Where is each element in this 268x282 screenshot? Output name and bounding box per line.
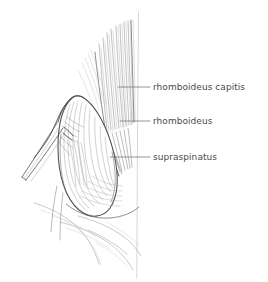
forelimb-edge bbox=[51, 186, 63, 240]
anatomical-figure: rhomboideus capitis rhomboideus supraspi… bbox=[0, 0, 268, 282]
snout-point bbox=[22, 123, 63, 180]
dorsal-midline bbox=[137, 12, 139, 278]
supraspinatus-outline bbox=[58, 96, 117, 216]
lower-body-contours-fine bbox=[40, 210, 139, 266]
illustration-canvas bbox=[0, 0, 268, 282]
